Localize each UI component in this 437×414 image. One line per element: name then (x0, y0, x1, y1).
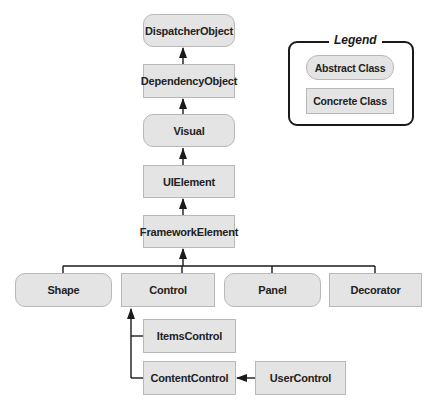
node-label: FrameworkElement (140, 226, 238, 238)
node-dependency-object: DependencyObject (143, 64, 235, 98)
legend-title: Legend (329, 33, 382, 47)
node-items-control: ItemsControl (143, 319, 236, 353)
legend-concrete-label: Concrete Class (313, 95, 387, 107)
legend-abstract-class: Abstract Class (306, 55, 394, 80)
node-label: Panel (258, 284, 286, 296)
node-content-control: ContentControl (143, 361, 236, 395)
node-label: DispatcherObject (145, 25, 233, 37)
node-label: Decorator (350, 284, 400, 296)
node-user-control: UserControl (255, 361, 346, 395)
node-label: Visual (173, 125, 204, 137)
node-control: Control (121, 273, 215, 307)
node-label: UserControl (270, 372, 331, 384)
node-label: ItemsControl (157, 330, 222, 342)
node-label: Control (149, 284, 187, 296)
node-panel: Panel (224, 273, 321, 307)
legend-abstract-label: Abstract Class (315, 62, 386, 74)
node-label: ContentControl (151, 372, 229, 384)
node-shape: Shape (15, 273, 112, 307)
node-label: UIElement (163, 176, 215, 188)
node-visual: Visual (143, 114, 235, 147)
node-ui-element: UIElement (143, 165, 235, 198)
node-dispatcher-object: DispatcherObject (143, 14, 235, 47)
legend-concrete-class: Concrete Class (306, 88, 394, 114)
node-label: DependencyObject (141, 75, 237, 87)
node-framework-element: FrameworkElement (143, 215, 235, 248)
node-label: Shape (47, 284, 79, 296)
node-decorator: Decorator (329, 273, 422, 307)
